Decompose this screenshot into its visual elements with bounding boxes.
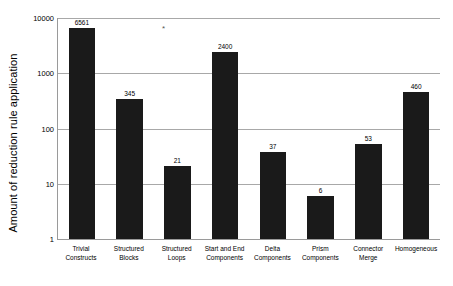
- x-axis-labels: TrivialConstructsStructuredBlocksStructu…: [57, 244, 440, 274]
- bar[interactable]: 53: [355, 144, 382, 239]
- bar[interactable]: 2400: [212, 52, 239, 239]
- bar[interactable]: 6: [307, 196, 334, 239]
- bar-chart: Amount of reduction rule application 100…: [0, 0, 453, 286]
- y-axis-tick-label: 10: [46, 179, 54, 188]
- x-axis-category-line: Components: [250, 253, 296, 262]
- x-axis-category-line: Delta: [250, 244, 296, 253]
- bar-slot: 6: [297, 18, 345, 239]
- bar-value-label: 6: [319, 187, 323, 194]
- y-axis-tick-label: 10000: [33, 14, 54, 23]
- bar-slot: 37: [249, 18, 297, 239]
- x-axis-category-line: Merge: [345, 253, 391, 262]
- x-axis-category-line: Trivial: [58, 244, 104, 253]
- x-axis-category-label: StructuredBlocks: [105, 244, 153, 274]
- x-axis-category-label: TrivialConstructs: [57, 244, 105, 274]
- bars-container: 656134521240037653460: [58, 18, 440, 239]
- bar-value-label: 53: [365, 135, 372, 142]
- y-axis-tick-label: 1: [50, 235, 54, 244]
- bar-value-label: 37: [269, 143, 276, 150]
- bar[interactable]: 37: [260, 152, 287, 239]
- x-axis-category-line: Constructs: [58, 253, 104, 262]
- x-axis-category-line: Structured: [106, 244, 152, 253]
- y-axis-title: Amount of reduction rule application: [0, 0, 26, 286]
- bar-value-label: 345: [124, 90, 135, 97]
- x-axis-category-line: Connector: [345, 244, 391, 253]
- bar-slot: 2400: [201, 18, 249, 239]
- x-axis-category-label: PrismComponents: [296, 244, 344, 274]
- bar-slot: 460: [392, 18, 440, 239]
- x-axis-category-line: Components: [297, 253, 343, 262]
- bar-slot: 6561: [58, 18, 106, 239]
- gridline: [58, 239, 440, 240]
- bar-value-label: 460: [411, 83, 422, 90]
- x-axis-category-label: DeltaComponents: [249, 244, 297, 274]
- bar[interactable]: 460: [403, 92, 430, 239]
- x-axis-category-line: Start and End: [202, 244, 248, 253]
- plot-area: 100001000100101 656134521240037653460: [57, 18, 440, 240]
- bar-slot: 21: [154, 18, 202, 239]
- bar-value-label: 6561: [75, 19, 89, 26]
- x-axis-category-line: Prism: [297, 244, 343, 253]
- x-axis-category-label: ConnectorMerge: [344, 244, 392, 274]
- bar-slot: 345: [106, 18, 154, 239]
- x-axis-category-line: Components: [202, 253, 248, 262]
- bar-value-label: 21: [174, 157, 181, 164]
- x-axis-category-label: Start and EndComponents: [201, 244, 249, 274]
- bar-value-label: 2400: [218, 43, 232, 50]
- x-axis-category-line: Loops: [154, 253, 200, 262]
- x-axis-category-label: StructuredLoops: [153, 244, 201, 274]
- bar-slot: 53: [345, 18, 393, 239]
- x-axis-category-line: Blocks: [106, 253, 152, 262]
- x-axis-category-line: Homogeneous: [393, 244, 439, 253]
- y-axis-tick-label: 100: [41, 124, 54, 133]
- bar[interactable]: 6561: [69, 28, 96, 239]
- x-axis-category-line: Structured: [154, 244, 200, 253]
- bar[interactable]: 21: [164, 166, 191, 239]
- bar[interactable]: 345: [116, 99, 143, 239]
- x-axis-category-label: Homogeneous: [392, 244, 440, 274]
- footnote-asterisk: *: [162, 25, 165, 33]
- y-axis-tick-label: 1000: [37, 69, 54, 78]
